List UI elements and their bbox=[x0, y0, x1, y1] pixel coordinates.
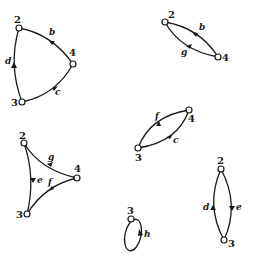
graph-pair-fc: 4 3 f c bbox=[135, 107, 195, 163]
edge-label: b bbox=[199, 22, 205, 32]
node-label: 3 bbox=[127, 205, 134, 216]
node-3 bbox=[19, 99, 25, 105]
graph-loop-h: 3 h bbox=[122, 205, 151, 252]
node-4 bbox=[70, 61, 76, 67]
edge-f bbox=[27, 178, 77, 214]
arrow-head-icon bbox=[229, 206, 235, 211]
edge-c bbox=[138, 110, 189, 148]
arrow-head-icon bbox=[192, 32, 198, 37]
edge-c bbox=[22, 64, 73, 102]
node-3 bbox=[24, 211, 30, 217]
node-4 bbox=[74, 175, 80, 181]
edge-b bbox=[19, 28, 73, 64]
edge-label: d bbox=[203, 202, 210, 212]
edge-label: g bbox=[48, 152, 54, 162]
arrow-head-icon bbox=[138, 229, 143, 236]
edge-f bbox=[138, 110, 189, 148]
edge-e bbox=[221, 169, 231, 240]
edge-label: f bbox=[154, 111, 161, 121]
arrow-head-icon bbox=[210, 205, 216, 210]
edge-d bbox=[214, 169, 224, 240]
node-label: 2 bbox=[168, 9, 175, 20]
edge-label: c bbox=[55, 87, 61, 97]
node-label: 3 bbox=[11, 97, 18, 108]
edge-g bbox=[165, 22, 218, 57]
node-label: 4 bbox=[188, 113, 195, 124]
node-2 bbox=[218, 166, 224, 172]
node-3 bbox=[128, 216, 134, 222]
graph-triangle-gef: 2 4 3 g e f bbox=[16, 130, 81, 220]
node-4 bbox=[215, 54, 221, 60]
node-label: 3 bbox=[228, 238, 235, 249]
edge-e bbox=[24, 143, 31, 214]
edge-label: e bbox=[236, 202, 242, 212]
node-label: 2 bbox=[14, 14, 21, 25]
graph-pair-bg: 2 4 b g bbox=[162, 9, 229, 63]
graph-triangle-bcd: 2 4 3 b c d bbox=[5, 14, 76, 108]
node-label: 3 bbox=[135, 152, 142, 163]
arrow-head-icon bbox=[11, 62, 17, 68]
edge-label: g bbox=[181, 47, 187, 57]
node-3 bbox=[221, 237, 227, 243]
edge-label: f bbox=[47, 177, 54, 187]
node-label: 2 bbox=[217, 155, 224, 166]
edge-label: h bbox=[144, 229, 151, 239]
edge-label: d bbox=[5, 56, 12, 66]
edge-label: e bbox=[37, 175, 43, 185]
node-2 bbox=[16, 25, 22, 31]
graph-pair-de: 2 3 d e bbox=[203, 155, 242, 249]
node-label: 4 bbox=[74, 163, 81, 174]
node-label: 4 bbox=[222, 52, 229, 63]
node-label: 3 bbox=[16, 209, 23, 220]
edge-b bbox=[165, 22, 218, 57]
node-label: 2 bbox=[19, 130, 26, 141]
edge-label: c bbox=[173, 135, 179, 145]
node-label: 4 bbox=[69, 47, 76, 58]
edge-label: b bbox=[49, 27, 55, 37]
graph-diagram: 2 4 3 b c d 2 4 b g 4 3 f c bbox=[0, 0, 254, 257]
node-3 bbox=[135, 145, 141, 151]
